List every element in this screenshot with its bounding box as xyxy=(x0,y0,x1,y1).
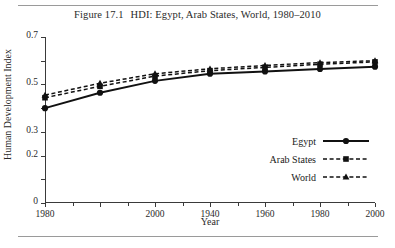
legend-sample-square xyxy=(322,153,370,165)
circle-marker xyxy=(42,105,48,111)
x-tick xyxy=(128,203,129,206)
x-tick xyxy=(100,203,101,207)
caption-rule-top xyxy=(18,5,378,6)
y-tick-label: 0.3 xyxy=(26,125,38,135)
legend-item-egypt[interactable]: Egypt xyxy=(228,132,370,150)
square-marker xyxy=(343,156,349,162)
figure-caption-text: HDI: Egypt, Arab States, World, 1980–201… xyxy=(131,9,321,20)
chart-legend: EgyptArab StatesWorld xyxy=(228,132,370,186)
y-tick-label: 0.5 xyxy=(26,77,38,87)
x-tick xyxy=(238,203,239,206)
legend-label: Arab States xyxy=(270,154,316,165)
legend-label: Egypt xyxy=(292,136,316,147)
legend-sample-circle xyxy=(322,135,370,147)
x-tick xyxy=(320,203,321,207)
circle-marker xyxy=(97,90,103,96)
caption-rule-bottom xyxy=(18,236,378,237)
x-tick xyxy=(265,203,266,207)
x-tick xyxy=(73,203,74,206)
x-tick xyxy=(375,203,376,207)
x-tick xyxy=(155,203,156,207)
y-axis-title: Human Development Index xyxy=(2,49,13,160)
x-tick xyxy=(210,203,211,207)
legend-item-world[interactable]: World xyxy=(228,168,370,186)
x-tick xyxy=(293,203,294,206)
legend-item-arab-states[interactable]: Arab States xyxy=(228,150,370,168)
figure-caption: Figure 17.1HDI: Egypt, Arab States, Worl… xyxy=(0,9,395,20)
circle-marker xyxy=(343,138,349,144)
triangle-marker xyxy=(97,80,104,86)
y-tick-label: 0 xyxy=(33,196,38,206)
x-tick xyxy=(348,203,349,206)
legend-label: World xyxy=(291,172,316,183)
x-tick xyxy=(45,203,46,207)
figure-container: Figure 17.1HDI: Egypt, Arab States, Worl… xyxy=(0,0,395,248)
x-axis-title: Year xyxy=(45,216,375,227)
y-tick-label: 0.2 xyxy=(26,149,38,159)
legend-sample-triangle xyxy=(322,171,370,183)
y-tick-label: 0.7 xyxy=(26,30,38,40)
x-tick xyxy=(183,203,184,206)
figure-number: Figure 17.1 xyxy=(74,9,124,20)
